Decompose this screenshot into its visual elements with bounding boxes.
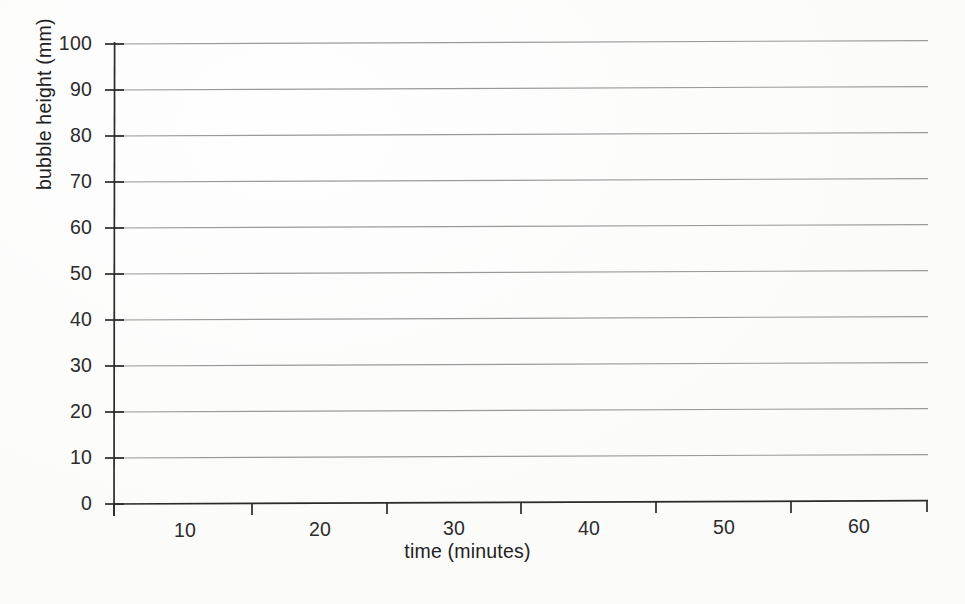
y-tick-label-0: 0	[30, 494, 92, 514]
x-tick-label-40: 40	[559, 519, 619, 539]
gridlines-horizontal	[114, 41, 928, 458]
gridline-80	[114, 133, 928, 136]
gridline-90	[114, 87, 928, 90]
y-tick-label-60: 60	[30, 218, 92, 238]
gridline-70	[114, 179, 928, 182]
graph-figure: 100 90 80 70 60 50 40 30 20 10 0 10 20 3…	[0, 0, 965, 604]
x-tick-label-60: 60	[829, 517, 889, 537]
y-axis-title-text: bubble height (mm)	[33, 18, 55, 190]
x-tick-label-20: 20	[290, 520, 350, 540]
x-tick-label-30: 30	[424, 519, 484, 539]
x-tick-label-10: 10	[155, 521, 215, 541]
plot-canvas	[0, 0, 965, 604]
gridline-50	[114, 271, 928, 274]
y-axis-line	[114, 42, 115, 516]
y-tick-label-50: 50	[30, 264, 92, 284]
x-tick-label-50: 50	[694, 518, 754, 538]
y-tick-label-40: 40	[30, 310, 92, 330]
gridline-30	[114, 363, 928, 366]
gridline-10	[114, 455, 928, 458]
gridline-60	[114, 225, 928, 228]
y-tick-label-30: 30	[30, 356, 92, 376]
y-axis-title: bubble height (mm)	[33, 0, 56, 190]
y-tick-label-10: 10	[30, 448, 92, 468]
x-axis-title-text: time (minutes)	[404, 540, 530, 563]
gridline-100	[114, 41, 928, 44]
x-axis-title: time (minutes)	[0, 540, 965, 563]
gridline-40	[114, 317, 928, 320]
gridline-20	[114, 409, 928, 412]
y-tick-label-20: 20	[30, 402, 92, 422]
graph-plot-group: 100 90 80 70 60 50 40 30 20 10 0 10 20 3…	[0, 0, 965, 604]
